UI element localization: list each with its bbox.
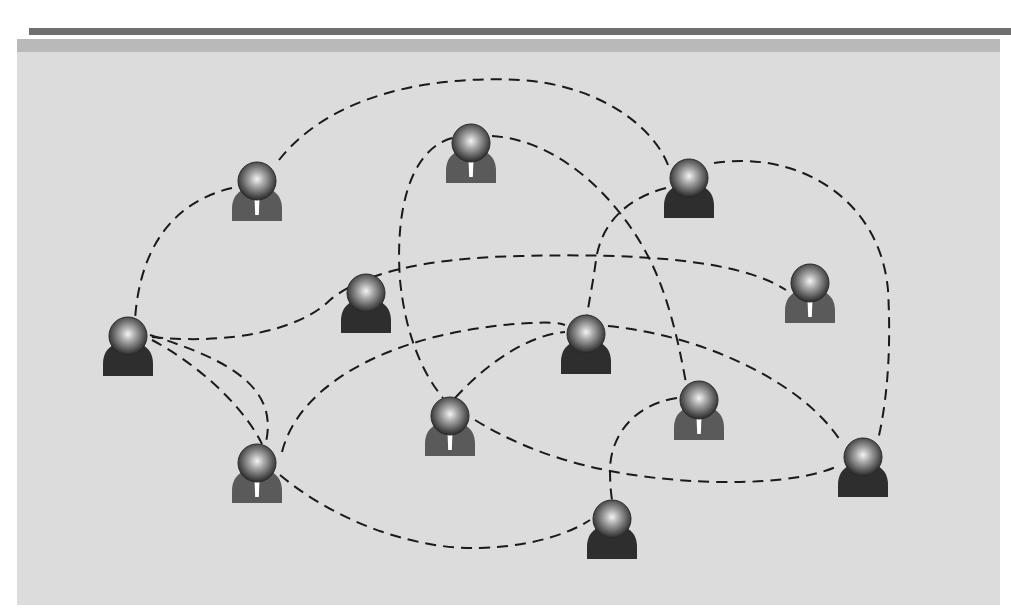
network-diagram <box>0 0 1011 615</box>
person-node-n4[interactable] <box>341 274 391 333</box>
edge-n10-n12 <box>280 475 590 548</box>
person-head-icon <box>680 381 718 419</box>
person-head-icon <box>452 124 490 162</box>
edge-n1-n6 <box>135 188 232 320</box>
person-node-n11[interactable] <box>838 438 888 497</box>
edge-n6-n5 <box>152 255 786 339</box>
person-head-icon <box>109 317 147 355</box>
edge-n9-n12 <box>610 398 677 500</box>
person-node-n10[interactable] <box>232 444 282 503</box>
person-head-icon <box>238 162 276 200</box>
person-node-n3[interactable] <box>664 159 714 218</box>
person-node-n12[interactable] <box>587 500 637 559</box>
person-head-icon <box>431 397 469 435</box>
person-node-n6[interactable] <box>103 317 153 376</box>
person-head-icon <box>670 159 708 197</box>
person-node-n9[interactable] <box>674 381 724 440</box>
person-node-n5[interactable] <box>785 264 835 323</box>
edge-n3-n7 <box>587 188 666 318</box>
edge-n8-n7 <box>455 332 565 398</box>
person-node-n8[interactable] <box>425 397 475 456</box>
edge-n8-n11 <box>475 420 840 482</box>
edge-n6-n8 <box>150 335 268 460</box>
person-nodes <box>103 124 888 559</box>
person-head-icon <box>791 264 829 302</box>
person-head-icon <box>567 315 605 353</box>
person-head-icon <box>347 274 385 312</box>
edge-n7-n11 <box>608 326 840 440</box>
person-node-n7[interactable] <box>561 315 611 374</box>
person-head-icon <box>593 500 631 538</box>
edge-n10-n7 <box>282 323 565 452</box>
person-node-n1[interactable] <box>232 162 282 221</box>
person-head-icon <box>238 444 276 482</box>
person-node-n2[interactable] <box>446 124 496 183</box>
person-head-icon <box>844 438 882 476</box>
